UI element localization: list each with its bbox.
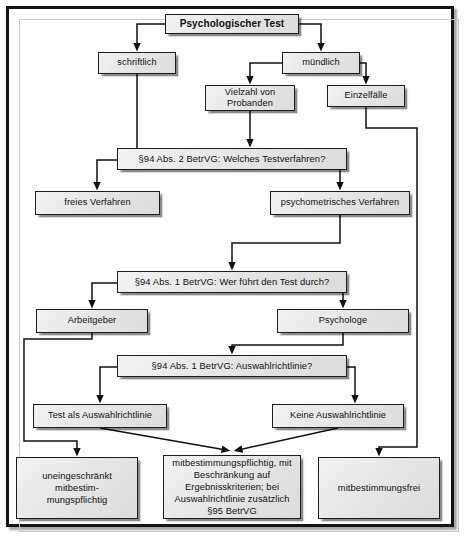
node-arbeitgeber: Arbeitgeber: [36, 309, 148, 333]
node-label-dec1: §94 Abs. 2 BetrVG: Welches Testverfahren…: [121, 153, 343, 165]
node-label-line: §95 BetrVG: [172, 505, 291, 517]
node-label-root: Psychologischer Test: [169, 18, 295, 30]
node-vielzahl: Vielzahl vonProbanden: [205, 85, 295, 111]
node-schriftlich: schriftlich: [98, 52, 176, 74]
node-label-term-right: mitbestimmungsfrei: [338, 482, 420, 494]
node-dec3: §94 Abs. 1 BetrVG: Auswahlrichtlinie?: [117, 355, 347, 377]
node-freies: freies Verfahren: [35, 191, 160, 215]
node-label-muendlich: mündlich: [286, 57, 356, 69]
node-label-line: Auswahlrichtlinie zusätzlich: [172, 493, 291, 505]
node-testals: Test als Auswahlrichtlinie: [33, 404, 167, 428]
node-term-left: uneingeschränkt mitbestim-mungspflichtig: [16, 457, 138, 519]
node-label-einzelfaelle: Einzelfälle: [331, 90, 401, 102]
node-label-testals: Test als Auswahlrichtlinie: [37, 410, 163, 422]
node-label-psychologe: Psychologe: [281, 315, 405, 327]
node-label-psycho: psychometrisches Verfahren: [274, 197, 406, 209]
node-label-line: Beschränkung auf: [172, 469, 291, 481]
node-label-schriftlich: schriftlich: [102, 57, 172, 69]
node-term-mid: mitbestimmungspflichtig, mitBeschränkung…: [163, 455, 301, 519]
node-keineaus: Keine Auswahlrichtlinie: [272, 404, 404, 428]
node-label-line: mitbestimmungspflichtig, mit: [172, 457, 291, 469]
node-muendlich: mündlich: [282, 52, 360, 74]
node-label-term-mid: mitbestimmungspflichtig, mitBeschränkung…: [172, 457, 291, 517]
node-label-dec2: §94 Abs. 1 BetrVG: Wer führt den Test du…: [121, 276, 343, 288]
node-label-vielzahl: Vielzahl vonProbanden: [225, 87, 275, 110]
node-label-term-left: uneingeschränkt mitbestim-mungspflichtig: [20, 470, 134, 506]
node-root: Psychologischer Test: [165, 14, 299, 34]
node-label-freies: freies Verfahren: [39, 197, 156, 209]
node-dec1: §94 Abs. 2 BetrVG: Welches Testverfahren…: [117, 148, 347, 170]
node-label-line: Vielzahl von: [225, 87, 275, 99]
node-psycho: psychometrisches Verfahren: [270, 191, 410, 215]
node-einzelfaelle: Einzelfälle: [327, 85, 405, 107]
node-dec2: §94 Abs. 1 BetrVG: Wer führt den Test du…: [117, 271, 347, 293]
node-psychologe: Psychologe: [277, 309, 409, 333]
node-label-arbeitgeber: Arbeitgeber: [40, 315, 144, 327]
node-label-line: uneingeschränkt mitbestim-: [20, 470, 134, 494]
node-term-right: mitbestimmungsfrei: [318, 457, 440, 519]
node-label-keineaus: Keine Auswahlrichtlinie: [276, 410, 400, 422]
node-label-line: mungspflichtig: [20, 494, 134, 506]
node-label-line: mitbestimmungsfrei: [338, 482, 420, 494]
node-label-dec3: §94 Abs. 1 BetrVG: Auswahlrichtlinie?: [121, 360, 343, 372]
node-label-line: Ergebnisskriterien; bei: [172, 481, 291, 493]
flowchart-canvas: Psychologischer TestschriftlichmündlichV…: [0, 0, 464, 540]
node-label-line: Probanden: [225, 98, 275, 110]
